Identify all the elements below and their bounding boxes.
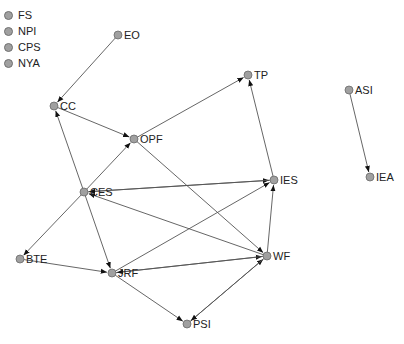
node-circle-icon[interactable]: [183, 320, 191, 328]
edge-wf-to-psi: [191, 259, 264, 321]
node-label: IEA: [376, 171, 394, 183]
edge-asi-to-iea: [350, 94, 369, 172]
node-label: EO: [124, 29, 140, 41]
node-label: IES: [280, 174, 298, 186]
edge-wf-to-ces: [89, 194, 264, 255]
node-circle-icon[interactable]: [80, 188, 88, 196]
node-circle-icon[interactable]: [114, 31, 122, 39]
node-cc[interactable]: CC: [50, 100, 76, 112]
node-opf[interactable]: OPF: [130, 133, 163, 145]
edge-ies-to-tp: [249, 80, 273, 176]
edge-ces-to-jrf: [85, 196, 110, 268]
edge-layer: [23, 38, 368, 321]
node-iea[interactable]: IEA: [366, 171, 394, 183]
node-jrf[interactable]: JRF: [108, 267, 138, 279]
node-eo[interactable]: EO: [114, 29, 140, 41]
edge-wf-to-jrf: [117, 256, 263, 272]
node-label: BTE: [26, 253, 47, 265]
node-circle-icon[interactable]: [50, 102, 58, 110]
node-circle-icon[interactable]: [263, 252, 271, 260]
node-layer: EOCCOPFTPCESIESBTEJRFWFPSIASIIEA: [16, 29, 394, 330]
edge-wf-to-ies: [267, 185, 273, 252]
node-circle-icon[interactable]: [108, 269, 116, 277]
node-circle-icon[interactable]: [366, 173, 374, 181]
network-graph: EOCCOPFTPCESIESBTEJRFWFPSIASIIEA: [0, 0, 404, 344]
node-circle-icon[interactable]: [345, 86, 353, 94]
edge-ces-to-opf: [87, 143, 131, 189]
node-tp[interactable]: TP: [244, 69, 268, 81]
edge-ces-to-bte: [23, 195, 81, 255]
node-label: WF: [273, 250, 290, 262]
edge-ces-to-cc: [56, 111, 83, 189]
node-label: CES: [90, 186, 113, 198]
node-circle-icon[interactable]: [130, 135, 138, 143]
edge-jrf-to-psi: [115, 275, 183, 321]
node-psi[interactable]: PSI: [183, 318, 211, 330]
node-asi[interactable]: ASI: [345, 84, 373, 96]
node-ces[interactable]: CES: [80, 186, 113, 198]
edge-ies-to-ces: [89, 180, 270, 191]
node-label: PSI: [193, 318, 211, 330]
node-label: OPF: [140, 133, 163, 145]
node-circle-icon[interactable]: [270, 176, 278, 184]
node-label: TP: [254, 69, 268, 81]
node-ies[interactable]: IES: [270, 174, 298, 186]
edge-eo-to-cc: [57, 38, 115, 102]
node-wf[interactable]: WF: [263, 250, 290, 262]
edge-jrf-to-ies: [115, 182, 269, 271]
node-circle-icon[interactable]: [244, 71, 252, 79]
node-bte[interactable]: BTE: [16, 253, 47, 265]
node-label: CC: [60, 100, 76, 112]
edge-opf-to-tp: [137, 77, 243, 137]
node-label: ASI: [355, 84, 373, 96]
node-label: JRF: [118, 267, 138, 279]
node-circle-icon[interactable]: [16, 255, 24, 263]
